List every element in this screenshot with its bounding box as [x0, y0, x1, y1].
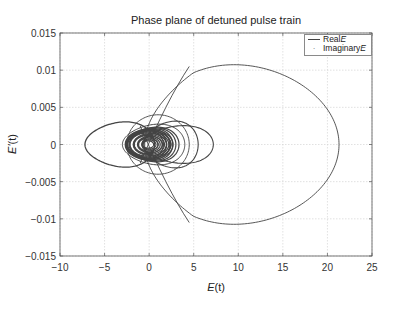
y-axis-label: E'(t) [6, 134, 18, 154]
x-tick-label: −10 [52, 262, 69, 273]
y-tick-label: −0.005 [25, 176, 56, 187]
y-tick-label: 0 [50, 139, 56, 150]
legend-label: Imaginary [323, 44, 360, 53]
x-tick-label: −5 [99, 262, 110, 273]
legend-symbol: E [360, 44, 366, 53]
x-tick-label: 15 [277, 262, 288, 273]
x-tick-label: 10 [233, 262, 244, 273]
y-tick-label: −0.01 [31, 213, 56, 224]
y-tick-label: 0.015 [31, 28, 56, 39]
x-axis-label: E(t) [60, 281, 372, 293]
x-tick-label: 20 [322, 262, 333, 273]
y-tick-label: 0.005 [31, 102, 56, 113]
y-tick-label: −0.015 [25, 251, 56, 262]
chart: Phase plane of detuned pulse train 0.015… [0, 0, 393, 313]
legend: Real E · Imaginary E [304, 34, 372, 56]
dot-marker-icon: · [308, 44, 320, 53]
solid-line-icon [308, 39, 320, 40]
x-tick-label: 0 [146, 262, 152, 273]
y-axis-label-symbol: E' [6, 144, 18, 153]
x-tick-label: 5 [191, 262, 197, 273]
x-tick-label: 25 [366, 262, 377, 273]
y-axis-label-arg: (t) [6, 134, 18, 144]
y-tick-label: 0.01 [37, 65, 56, 76]
x-axis-label-arg: (t) [214, 281, 224, 293]
legend-item-imaginary: · Imaginary E [305, 44, 371, 53]
